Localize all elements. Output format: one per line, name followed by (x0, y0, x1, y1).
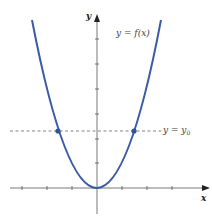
y-axis-label: y (86, 11, 91, 21)
x-axis-arrow-icon (202, 185, 210, 191)
intersection-point-right (131, 128, 136, 133)
line-label: y = y0 (163, 125, 190, 136)
y-axis-arrow-icon (94, 14, 100, 22)
line-label-subscript: 0 (186, 129, 190, 136)
x-axis-label: x (201, 193, 206, 203)
intersection-point-left (55, 128, 60, 133)
line-label-text: y = y (163, 125, 186, 135)
curve-label: y = f(x) (116, 28, 150, 38)
graph-canvas (0, 0, 212, 221)
